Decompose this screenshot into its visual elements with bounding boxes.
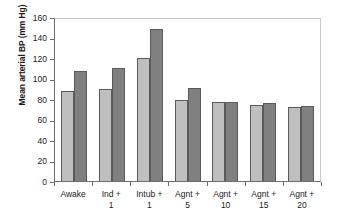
bar-group xyxy=(55,19,93,181)
bar-group xyxy=(206,19,244,181)
x-axis-labels: AwakeInd + 1Intub + 1Agnt + 5Agnt + 10Ag… xyxy=(54,189,321,211)
bar-chart: Mean arterial BP (mm Hg) 160140120100806… xyxy=(0,0,343,223)
x-tick-mark xyxy=(168,182,169,186)
bar xyxy=(263,103,276,181)
bar-group xyxy=(244,19,282,181)
x-tick-mark xyxy=(92,182,93,186)
bar xyxy=(150,29,163,181)
bar xyxy=(212,102,225,181)
y-tick-label: 160 xyxy=(33,13,47,23)
y-tick-label: 20 xyxy=(38,156,47,166)
x-tick-mark xyxy=(283,182,284,186)
bar-group xyxy=(93,19,131,181)
bar-groups xyxy=(55,19,320,181)
y-tick-label: 100 xyxy=(33,74,47,84)
bar xyxy=(288,107,301,181)
bar-group xyxy=(169,19,207,181)
plot-area xyxy=(54,18,321,182)
bar xyxy=(99,89,112,181)
bar xyxy=(250,105,263,181)
x-axis-label: Ind + 1 xyxy=(92,189,130,211)
y-tick-label: 40 xyxy=(38,136,47,146)
x-axis-label: Agnt + 15 xyxy=(245,189,283,211)
x-axis-label: Agnt + 5 xyxy=(168,189,206,211)
y-tick-label: 120 xyxy=(33,54,47,64)
x-tick-mark xyxy=(245,182,246,186)
y-tick-label: 80 xyxy=(38,95,47,105)
y-tick-label: 60 xyxy=(38,115,47,125)
x-tick-mark xyxy=(54,182,55,186)
bar xyxy=(188,88,201,181)
x-axis-label: Agnt + 20 xyxy=(283,189,321,211)
bar xyxy=(74,71,87,181)
bar xyxy=(137,58,150,181)
bar-group xyxy=(282,19,320,181)
bar xyxy=(225,102,238,181)
bar xyxy=(301,106,314,181)
x-axis-label: Agnt + 10 xyxy=(207,189,245,211)
y-tick-label: 0 xyxy=(42,177,47,187)
x-tick-mark xyxy=(130,182,131,186)
bar-group xyxy=(131,19,169,181)
bar xyxy=(112,68,125,181)
y-tick-label: 140 xyxy=(33,33,47,43)
bar xyxy=(175,100,188,181)
bar xyxy=(61,91,74,181)
x-axis-ticks xyxy=(54,182,321,186)
x-axis-label: Awake xyxy=(54,189,92,211)
x-tick-mark xyxy=(321,182,322,186)
x-axis-label: Intub + 1 xyxy=(130,189,168,211)
x-tick-mark xyxy=(207,182,208,186)
y-axis-ticks: 160140120100806040200 xyxy=(0,18,54,182)
